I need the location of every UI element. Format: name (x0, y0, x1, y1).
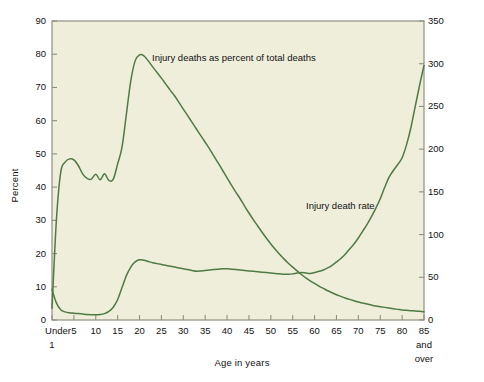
right-tick-label-250: 250 (428, 100, 458, 111)
left-tick-label-40: 40 (20, 181, 46, 192)
left-tick-label-20: 20 (20, 248, 46, 259)
percent-series-label: Injury deaths as percent of total deaths (152, 52, 316, 63)
left-axis-title: Percent (9, 156, 20, 216)
injury-deaths-chart-figure: Percent Deaths per 100,000 population Ag… (0, 0, 484, 382)
left-tick-label-0: 0 (20, 314, 46, 325)
bottom-tick-label-under-1-line2: 1 (32, 339, 72, 350)
left-tick-label-50: 50 (20, 148, 46, 159)
plot-background (52, 21, 424, 320)
right-tick-label-350: 350 (428, 15, 458, 26)
right-tick-label-150: 150 (428, 186, 458, 197)
bottom-tick-label-85-line1: 85 (404, 325, 444, 336)
left-tick-label-70: 70 (20, 81, 46, 92)
left-tick-label-10: 10 (20, 281, 46, 292)
right-tick-label-100: 100 (428, 229, 458, 240)
left-tick-label-80: 80 (20, 48, 46, 59)
bottom-tick-label-85-line3: over (404, 353, 444, 364)
rate-series-label: Injury death rate (306, 200, 375, 211)
right-tick-label-50: 50 (428, 271, 458, 282)
left-tick-label-60: 60 (20, 115, 46, 126)
right-tick-label-200: 200 (428, 143, 458, 154)
left-tick-label-30: 30 (20, 214, 46, 225)
page-caption-fragment (0, 374, 484, 382)
left-tick-label-90: 90 (20, 15, 46, 26)
bottom-tick-label-85-line2: and (404, 339, 444, 350)
right-tick-label-300: 300 (428, 58, 458, 69)
right-tick-label-0: 0 (428, 314, 458, 325)
